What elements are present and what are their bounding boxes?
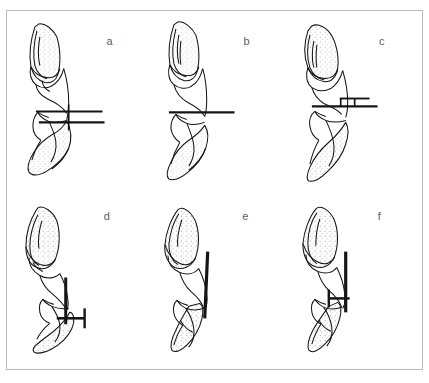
reference-bar-e xyxy=(205,252,208,319)
figure-panel-f: f xyxy=(284,190,422,369)
figure-panel-e: e xyxy=(145,190,283,369)
occlusal-reference-bars-a xyxy=(36,104,105,130)
panel-label-c: c xyxy=(379,36,385,47)
figure-plate: a xyxy=(0,0,429,383)
lower-incisor-f xyxy=(308,299,342,351)
panel-a-illustration xyxy=(7,11,145,190)
lower-incisor-e xyxy=(171,300,204,351)
panel-c-illustration xyxy=(284,11,422,190)
figure-panel-a: a xyxy=(7,11,145,190)
panel-f-illustration xyxy=(284,190,422,369)
panel-d-illustration xyxy=(7,190,145,369)
figure-panel-b: b xyxy=(145,11,283,190)
upper-incisor-f xyxy=(303,207,345,308)
panel-label-b: b xyxy=(244,36,250,47)
panel-grid: a xyxy=(7,11,422,369)
panel-label-a: a xyxy=(107,36,113,47)
figure-panel-c: c xyxy=(284,11,422,190)
lower-incisor-b xyxy=(168,114,209,179)
panel-label-f: f xyxy=(378,211,381,222)
figure-panel-d: d xyxy=(7,190,145,369)
plate-frame: a xyxy=(6,10,423,370)
upper-incisor-a xyxy=(30,24,69,121)
upper-incisor-b xyxy=(169,22,207,117)
panel-label-d: d xyxy=(104,211,110,222)
lower-incisor-c xyxy=(307,111,348,181)
upper-incisor-d xyxy=(26,207,68,310)
panel-label-e: e xyxy=(242,211,248,222)
upper-incisor-e xyxy=(165,208,207,309)
panel-b-illustration xyxy=(145,11,283,190)
panel-e-illustration xyxy=(145,190,283,369)
